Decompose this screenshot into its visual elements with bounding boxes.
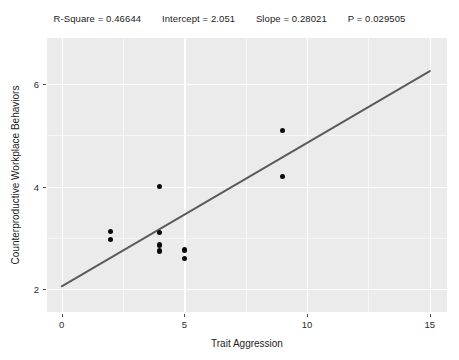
y-tick-mark — [43, 289, 46, 290]
y-tick-mark — [43, 187, 46, 188]
x-tick-label: 5 — [182, 319, 187, 330]
data-point — [182, 247, 187, 252]
y-axis-title: Counterproductive Workplace Behaviors — [10, 38, 24, 312]
data-point — [280, 174, 285, 179]
stat-p-value: P = 0.029505 — [348, 13, 406, 24]
regression-line — [47, 38, 447, 312]
y-tick-mark — [43, 84, 46, 85]
statistics-annotation: R-Square = 0.46644 Intercept = 2.051 Slo… — [0, 13, 459, 24]
x-tick-mark — [184, 314, 185, 317]
data-point — [182, 256, 187, 261]
stat-intercept: Intercept = 2.051 — [162, 13, 235, 24]
plot-panel — [47, 38, 447, 312]
x-tick-label: 0 — [59, 319, 64, 330]
data-point — [280, 128, 285, 133]
stat-r-square: R-Square = 0.46644 — [54, 13, 142, 24]
x-tick-mark — [307, 314, 308, 317]
x-tick-label: 15 — [425, 319, 436, 330]
x-axis-title: Trait Aggression — [47, 338, 447, 349]
scatter-plot-figure: R-Square = 0.46644 Intercept = 2.051 Slo… — [0, 0, 459, 360]
x-tick-mark — [62, 314, 63, 317]
x-tick-mark — [430, 314, 431, 317]
x-tick-label: 10 — [302, 319, 313, 330]
stat-slope: Slope = 0.28021 — [256, 13, 327, 24]
